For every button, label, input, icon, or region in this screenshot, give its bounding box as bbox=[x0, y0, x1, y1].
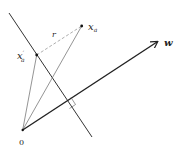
origin-to-xprime-line bbox=[23, 55, 37, 130]
x-a-label: xa bbox=[88, 21, 98, 33]
origin-point bbox=[22, 129, 24, 131]
r-label: r bbox=[52, 30, 57, 39]
origin-label: 0 bbox=[19, 138, 24, 147]
origin-to-x-line bbox=[23, 26, 82, 130]
hyperplane-line bbox=[9, 13, 92, 137]
w-vector-arrow bbox=[23, 42, 157, 130]
distance-r-line bbox=[37, 26, 82, 55]
x-prime-a-label: x′a bbox=[17, 49, 25, 63]
x-prime-a-point bbox=[35, 54, 38, 57]
w-label: w bbox=[164, 37, 173, 48]
x-a-point bbox=[80, 25, 83, 28]
hyperplane-projection-diagram: xa x′a r w 0 bbox=[0, 0, 187, 152]
